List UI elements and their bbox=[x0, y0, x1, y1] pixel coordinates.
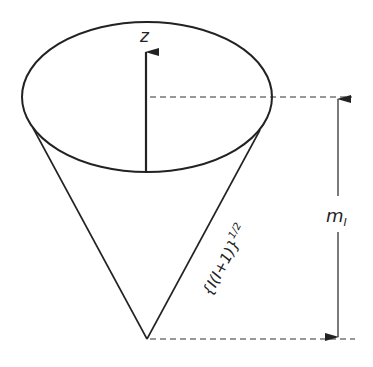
diagram-canvas: z mI {I(I+1)}1/2 bbox=[0, 0, 373, 367]
z-axis-label: z bbox=[139, 26, 150, 46]
cone-left-edge bbox=[33, 128, 147, 339]
cone-right-edge bbox=[147, 130, 260, 339]
cone-diagram: z mI {I(I+1)}1/2 bbox=[0, 0, 373, 367]
projection-label: mI bbox=[326, 205, 347, 229]
